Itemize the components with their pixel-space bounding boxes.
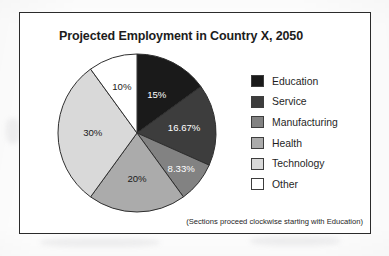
pie-slice-label: 10% <box>112 81 132 92</box>
pie-slice-label: 20% <box>127 173 147 184</box>
scan-smudge <box>250 236 340 246</box>
pie-slice-label: 8.33% <box>168 163 196 174</box>
page-background: Projected Employment in Country X, 2050 … <box>0 0 389 256</box>
pie-slice-label: 16.67% <box>168 122 201 133</box>
legend-item: Service <box>251 92 369 113</box>
legend-swatch-icon <box>251 75 264 87</box>
legend-item-label: Manufacturing <box>272 117 338 128</box>
legend-item: Education <box>251 71 369 92</box>
legend-swatch-icon <box>251 158 264 170</box>
legend-swatch-icon <box>251 178 264 190</box>
legend-swatch-icon <box>251 137 264 149</box>
pie-chart: 15%16.67%8.33%20%30%10% <box>51 53 223 213</box>
legend-item-label: Service <box>272 96 307 107</box>
legend-item: Other <box>251 174 369 195</box>
chart-footnote: (Sections proceed clockwise starting wit… <box>186 217 363 226</box>
legend-item: Health <box>251 133 369 154</box>
legend-item-label: Technology <box>272 158 325 169</box>
pie-slice-label: 30% <box>83 127 103 138</box>
pie-chart-svg: 15%16.67%8.33%20%30%10% <box>51 53 223 213</box>
pie-slice-label: 15% <box>147 89 167 100</box>
legend-swatch-icon <box>251 116 264 128</box>
scan-smudge <box>40 238 160 247</box>
legend-swatch-icon <box>251 96 264 108</box>
legend-item-label: Health <box>272 138 302 149</box>
scan-smudge <box>6 118 20 144</box>
chart-figure-frame: Projected Employment in Country X, 2050 … <box>19 12 371 234</box>
legend-item: Manufacturing <box>251 112 369 133</box>
chart-legend: EducationServiceManufacturingHealthTechn… <box>251 71 369 195</box>
legend-item-label: Other <box>272 179 298 190</box>
legend-item: Technology <box>251 153 369 174</box>
page-title: Projected Employment in Country X, 2050 <box>20 29 370 43</box>
legend-item-label: Education <box>272 76 318 87</box>
